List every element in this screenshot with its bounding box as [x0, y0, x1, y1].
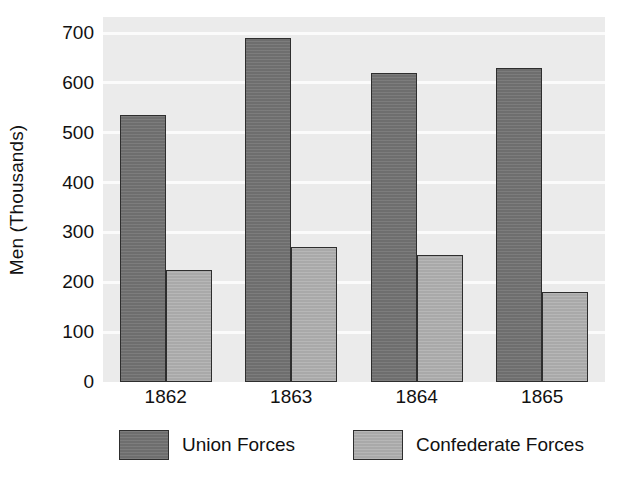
- y-axis-tick-labels: 0100200300400500600700: [34, 0, 100, 400]
- bar-1863-union: [245, 38, 291, 382]
- x-axis-tick-label: 1864: [396, 386, 438, 408]
- bar-1865-union: [496, 68, 542, 382]
- x-axis-tick-label: 1865: [521, 386, 563, 408]
- bar-1864-union: [371, 73, 417, 382]
- legend-item[interactable]: Union Forces: [119, 430, 295, 460]
- legend-item[interactable]: Confederate Forces: [353, 430, 584, 460]
- y-axis-title: Men (Thousands): [0, 0, 34, 400]
- y-axis-tick-label: 100: [62, 321, 94, 343]
- chart-legend: Union ForcesConfederate Forces: [103, 428, 605, 462]
- y-axis-tick-label: 600: [62, 72, 94, 94]
- bar-1862-confederate: [166, 270, 212, 382]
- y-axis-tick-label: 500: [62, 122, 94, 144]
- confederate-swatch: [353, 430, 403, 460]
- legend-item-label: Confederate Forces: [416, 434, 584, 456]
- plot-area: [103, 17, 605, 382]
- bar-1865-confederate: [542, 292, 588, 382]
- bar-1862-union: [120, 115, 166, 382]
- x-axis-tick-label: 1863: [270, 386, 312, 408]
- y-axis-tick-label: 400: [62, 172, 94, 194]
- bar-1863-confederate: [291, 247, 337, 382]
- union-swatch: [119, 430, 169, 460]
- y-axis-tick-label: 200: [62, 271, 94, 293]
- y-axis-title-text: Men (Thousands): [6, 125, 28, 275]
- x-axis-tick-label: 1862: [145, 386, 187, 408]
- bars-layer: [103, 17, 605, 382]
- x-axis-tick-labels: 1862186318641865: [103, 386, 605, 416]
- legend-item-label: Union Forces: [182, 434, 295, 456]
- y-axis-tick-label: 300: [62, 221, 94, 243]
- y-axis-tick-label: 0: [83, 371, 94, 393]
- bar-1864-confederate: [417, 255, 463, 382]
- y-axis-tick-label: 700: [62, 22, 94, 44]
- bar-chart: Men (Thousands) 0100200300400500600700 1…: [0, 0, 638, 480]
